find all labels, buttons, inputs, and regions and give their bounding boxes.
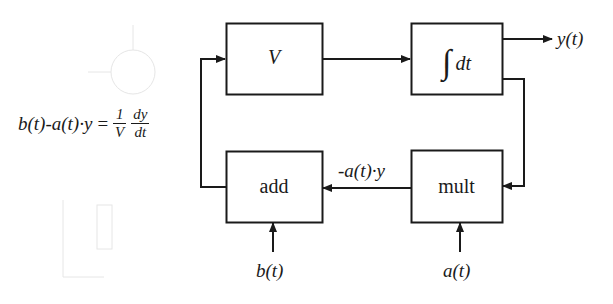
background-artifacts [63,25,155,277]
fraction-dy-dt: dy dt [131,106,149,141]
equation-lhs: b(t)-a(t)·y [18,113,92,135]
input-b-label: b(t) [256,260,283,282]
frac1-denominator: V [113,124,126,141]
add-label-text: add [260,175,289,197]
input-a-label: a(t) [443,260,470,282]
frac2-numerator: dy [131,106,149,124]
integrator-label-text: dt [455,52,471,74]
fraction-one-over-v: 1 V [113,106,126,141]
frac2-denominator: dt [131,124,149,141]
edge-add-to-volume [201,59,226,187]
add-block-label: add [226,175,322,198]
integrator-block-label: ∫dt [411,40,502,78]
volume-label-text: V [268,46,280,68]
integral-icon: ∫ [442,43,451,80]
edge-integrator-to-mult [502,79,524,186]
equation-equals: = [97,113,108,135]
mult-block-label: mult [411,175,502,198]
frac1-numerator: 1 [113,106,126,124]
mult-label-text: mult [438,175,475,197]
output-label: y(t) [557,28,583,50]
feedback-label: -a(t)·y [338,160,385,182]
volume-block-label: V [226,46,322,69]
balance-equation: b(t)-a(t)·y = 1 V dy dt [18,106,149,141]
